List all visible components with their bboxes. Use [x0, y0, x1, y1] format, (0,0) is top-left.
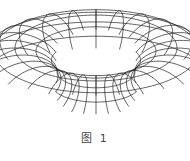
torus-mesh: [0, 10, 190, 115]
figure-caption: 图 1: [0, 129, 190, 145]
